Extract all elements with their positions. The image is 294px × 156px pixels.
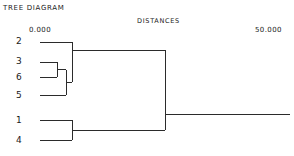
dendrogram-plot [0, 0, 294, 156]
tree-diagram-canvas: TREE DIAGRAM DISTANCES 0.000 50.000 2 3 … [0, 0, 294, 156]
dendrogram-branches [40, 42, 290, 140]
